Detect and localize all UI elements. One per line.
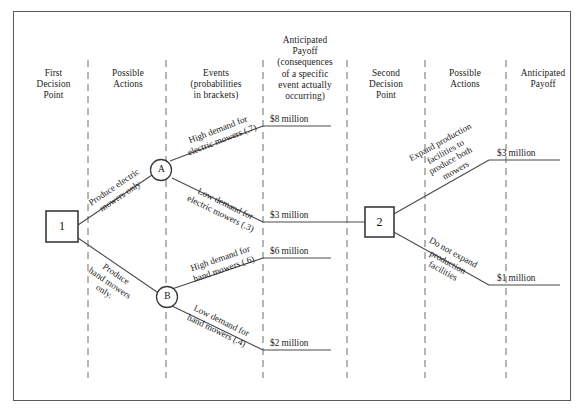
- payoff-3-million: $3 million: [270, 210, 308, 220]
- payoff-6-million: $6 million: [270, 246, 308, 256]
- payoff-1-million-right: $1 million: [497, 273, 535, 283]
- column-header-second-decision-point: SecondDecisionPoint: [356, 68, 416, 102]
- column-header-anticipated-payoff-2: AnticipatedPayoff: [512, 68, 574, 90]
- payoff-2-million: $2 million: [270, 338, 308, 348]
- column-header-anticipated-payoff-1: AnticipatedPayoff(consequencesof a speci…: [266, 35, 344, 102]
- decision-node-2-label: 2: [365, 216, 394, 228]
- payoff-8-million: $8 million: [270, 114, 308, 124]
- payoff-3-million-right: $3 million: [497, 148, 535, 158]
- diagram-canvas: FirstDecisionPoint PossibleActions Event…: [0, 0, 584, 414]
- column-header-events: Events(probabilitiesin brackets): [176, 68, 256, 102]
- column-header-first-decision-point: FirstDecisionPoint: [26, 68, 81, 102]
- column-header-possible-actions-2: PossibleActions: [434, 68, 496, 90]
- column-header-possible-actions-1: PossibleActions: [99, 68, 157, 90]
